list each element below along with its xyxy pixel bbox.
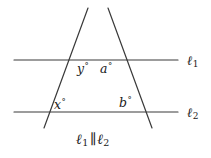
degree-symbol-x: ° bbox=[61, 97, 66, 107]
caption-l2-subscript: 2 bbox=[103, 137, 109, 148]
angle-letter-b: b bbox=[119, 95, 127, 110]
parallel-symbol-icon: ∥ bbox=[88, 131, 97, 147]
degree-symbol-y: ° bbox=[84, 61, 89, 71]
angle-letter-x: x bbox=[54, 97, 61, 112]
angle-label-x: x° bbox=[54, 98, 66, 111]
angle-label-a: a° bbox=[100, 62, 112, 75]
angle-letter-y: y bbox=[77, 61, 84, 76]
line-label-l2-subscript: 2 bbox=[192, 111, 198, 121]
line-label-l1: ℓ1 bbox=[187, 54, 198, 69]
degree-symbol-b: ° bbox=[127, 95, 132, 105]
angle-label-y: y° bbox=[77, 62, 89, 75]
line-label-l2: ℓ2 bbox=[187, 106, 198, 121]
geometry-figure: y° a° x° b° ℓ1 ℓ2 ℓ1∥ℓ2 bbox=[0, 0, 211, 158]
right-transversal-line bbox=[108, 8, 152, 128]
caption-parallel-statement: ℓ1∥ℓ2 bbox=[76, 132, 109, 148]
angle-label-b: b° bbox=[119, 96, 132, 109]
line-label-l1-subscript: 1 bbox=[192, 59, 198, 69]
degree-symbol-a: ° bbox=[107, 61, 112, 71]
caption-l1-letter: ℓ bbox=[76, 131, 82, 147]
